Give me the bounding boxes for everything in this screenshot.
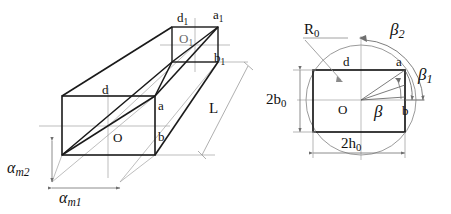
beta1-arc xyxy=(406,72,412,100)
section-corner-a-label: a xyxy=(396,55,402,68)
length-label: L xyxy=(209,101,218,116)
front-face-center-label: O xyxy=(113,131,122,144)
radius-label: R0 xyxy=(304,22,319,39)
back-face-corner-b1-label: b1 xyxy=(214,51,225,67)
beta2-arc xyxy=(359,35,423,100)
back-face-center-label: O1 xyxy=(179,32,193,48)
beta2-label: β2 xyxy=(390,21,405,41)
beta1-label: β1 xyxy=(418,66,433,86)
section-radius-lines xyxy=(361,70,405,100)
front-face-corner-a-label: a xyxy=(158,99,164,112)
back-face-corner-a1-label: a1 xyxy=(213,8,223,24)
alpha-m1-label: αm1 xyxy=(59,190,81,209)
width-label: 2h0 xyxy=(341,136,361,153)
radius-leader-line xyxy=(303,38,348,82)
section-center-label: O xyxy=(338,103,347,116)
alpha-m2-label: αm2 xyxy=(7,160,29,179)
front-face-top-label: d xyxy=(102,83,109,96)
back-face-top-label: d1 xyxy=(177,11,188,27)
front-face-corner-b-label: b xyxy=(158,130,165,143)
diagram-canvas xyxy=(0,0,451,214)
section-corner-b-label: b xyxy=(402,104,409,117)
section-corner-d-label: d xyxy=(343,55,350,68)
height-label: 2b0 xyxy=(266,92,286,109)
beta-label: β xyxy=(374,103,382,120)
engineering-diagram: d1 a1 O1 b1 d a O b L αm2 αm1 R0 β2 β1 d… xyxy=(0,0,451,214)
